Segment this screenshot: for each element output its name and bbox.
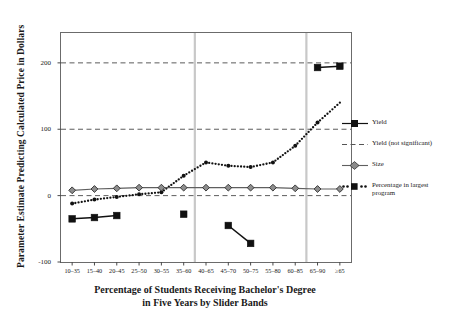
x-axis-title: Percentage of Students Receiving Bachelo… <box>40 283 370 309</box>
legend-item-yield[interactable]: Yield <box>372 118 452 130</box>
chart-legend: Yield Yield (not significant) Size Perce… <box>372 118 452 207</box>
y-tick-label: 200 <box>25 59 51 67</box>
legend-item-size[interactable]: Size <box>372 160 452 172</box>
legend-item-yield-not-significant[interactable]: Yield (not significant) <box>372 139 452 151</box>
y-tick-label: 100 <box>25 125 51 133</box>
dashed-line-key-icon <box>341 140 369 149</box>
y-tick-label: -100 <box>25 258 51 266</box>
legend-label-yield: Yield <box>372 118 452 126</box>
legend-label-size: Size <box>372 160 452 168</box>
solid-diamond-key-icon <box>341 161 369 170</box>
legend-label-yield-not-significant: Yield (not significant) <box>372 139 452 147</box>
x-tick-label: ≥65 <box>325 267 355 274</box>
plot-area-frame <box>61 33 352 263</box>
dotted-dot-key-icon <box>341 182 369 191</box>
x-axis-title-line1: Percentage of Students Receiving Bachelo… <box>94 284 316 295</box>
legend-label-percentage-in-largest-program: Percentage in largest program <box>372 181 452 198</box>
y-axis-label: Parameter Estimate Predicting Calculated… <box>16 18 26 268</box>
solid-square-key-icon <box>341 119 369 128</box>
legend-item-percentage-in-largest-program[interactable]: Percentage in largest program <box>372 181 452 198</box>
x-axis-title-line2: in Five Years by Slider Bands <box>142 297 267 308</box>
y-tick-label: 0 <box>25 192 51 200</box>
